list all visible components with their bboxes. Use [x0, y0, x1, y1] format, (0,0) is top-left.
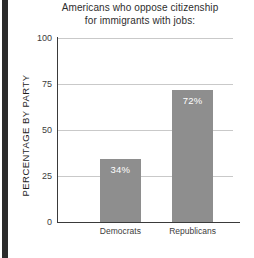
y-axis-line [57, 37, 58, 223]
y-tick-label-75: 75 [42, 79, 52, 89]
bar-value-republicans: 72% [172, 95, 213, 106]
y-axis-title: PERCENTAGE BY PARTY [20, 56, 31, 216]
chart-title-line-2: for immigrants with jobs: [34, 15, 246, 28]
y-tick-label-50: 50 [42, 125, 52, 135]
plot-area: 100 75 50 25 0 34% 72% [57, 38, 233, 222]
bar-value-democrats: 34% [100, 164, 141, 175]
gridline-100: 100 [57, 38, 233, 39]
bar-chart-figure: Americans who oppose citizenship for imm… [0, 0, 254, 258]
x-axis-line [57, 222, 240, 223]
y-tick-label-0: 0 [47, 217, 52, 227]
y-tick-label-25: 25 [42, 171, 52, 181]
bar-republicans[interactable]: 72% [172, 90, 213, 222]
chart-title-line-1: Americans who oppose citizenship [34, 2, 246, 15]
x-tick-label-republicans: Republicans [143, 226, 243, 236]
y-tick-label-100: 100 [37, 33, 52, 43]
gridline-75: 75 [57, 84, 233, 85]
bar-democrats[interactable]: 34% [100, 159, 141, 222]
chart-title: Americans who oppose citizenship for imm… [34, 2, 246, 27]
